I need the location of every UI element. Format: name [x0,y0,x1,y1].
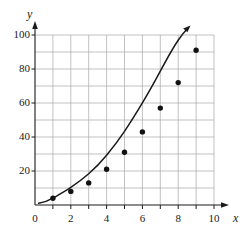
x-tick-label-2: 2 [61,213,81,224]
data-point [86,180,91,185]
x-axis-label: x [233,212,238,224]
x-tick-label-6: 6 [132,213,152,224]
data-point [122,150,127,155]
grid-lines [35,35,214,205]
x-tick-label-8: 8 [168,213,188,224]
y-tick-label-60: 60 [2,97,30,108]
chart-figure: 100 80 60 40 20 0 2 4 6 8 10 y x [0,0,248,241]
data-point [104,167,109,172]
data-point [68,189,73,194]
y-axis-label: y [27,8,32,20]
y-tick-label-20: 20 [2,165,30,176]
x-tick-label-0: 0 [25,213,45,224]
x-tick-label-4: 4 [97,213,117,224]
x-axis-ticks [53,205,214,209]
x-tick-label-10: 10 [204,213,224,224]
data-point [193,48,198,53]
y-tick-label-100: 100 [2,29,30,40]
axis-arrowheads [32,21,229,208]
data-point [158,105,163,110]
data-curve [39,28,189,204]
y-tick-label-80: 80 [2,63,30,74]
x-axis-arrow-icon [221,202,229,208]
plot-area [0,0,248,241]
data-point [140,129,145,134]
y-tick-label-40: 40 [2,131,30,142]
y-axis-arrow-icon [32,21,38,29]
data-point [176,80,181,85]
data-point [50,196,55,201]
